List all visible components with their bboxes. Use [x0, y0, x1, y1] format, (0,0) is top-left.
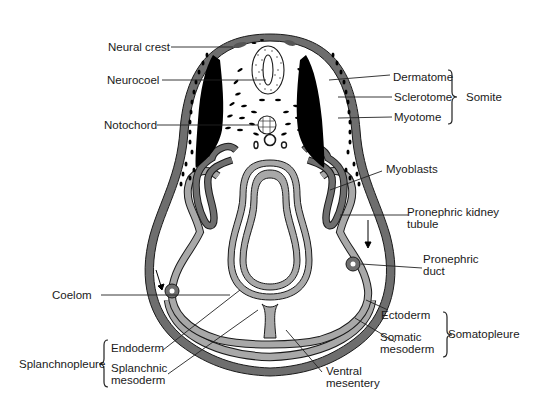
pronephric-duct-left	[165, 284, 179, 298]
label-somatopleure: Somatopleure	[448, 328, 520, 340]
embryo-cross-section-diagram: Neural crest Neurocoel Notochord Dermato…	[0, 0, 542, 412]
neural-tube	[252, 46, 284, 94]
label-endoderm: Endoderm	[111, 342, 164, 354]
label-coelom: Coelom	[52, 289, 92, 301]
label-pronephric-kidney-tubule: Pronephric kidney	[407, 206, 499, 218]
label-ventral-mesentery: Ventral	[326, 365, 362, 377]
label-neural-crest: Neural crest	[108, 41, 171, 53]
pronephric-duct-right	[346, 257, 360, 271]
label-somite: Somite	[466, 91, 502, 103]
label-myotome: Myotome	[394, 111, 441, 123]
label-notochord: Notochord	[104, 119, 157, 131]
label-somatic-mesoderm-line2: mesoderm	[380, 343, 434, 355]
label-pronephric-duct-line2: duct	[423, 265, 446, 277]
label-neurocoel: Neurocoel	[107, 74, 159, 86]
label-splanchnic-mesoderm-line2: mesoderm	[111, 374, 165, 386]
label-ectoderm: Ectoderm	[381, 309, 430, 321]
label-pronephric-kidney-tubule-line2: tubule	[407, 218, 438, 230]
label-splanchnopleure: Splanchnopleure	[19, 358, 105, 370]
label-splanchnic-mesoderm: Splanchnic	[111, 362, 168, 374]
label-sclerotome: Sclerotome	[394, 91, 452, 103]
label-somatic-mesoderm: Somatic	[380, 331, 422, 343]
label-pronephric-duct: Pronephric	[423, 253, 479, 265]
label-dermatome: Dermatome	[393, 71, 453, 83]
label-ventral-mesentery-line2: mesentery	[326, 377, 380, 389]
label-myoblasts: Myoblasts	[386, 163, 438, 175]
notochord	[258, 116, 276, 134]
